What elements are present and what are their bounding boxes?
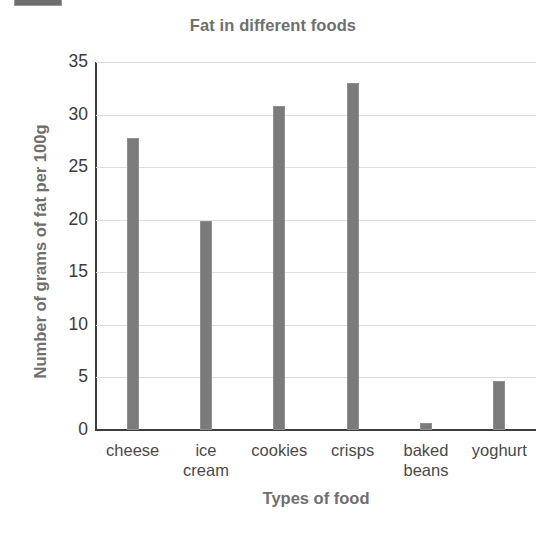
y-tick-label: 35 xyxy=(46,51,88,72)
y-tick-label: 30 xyxy=(46,104,88,125)
bar xyxy=(273,106,285,430)
gridline xyxy=(96,220,536,221)
y-axis-tick-labels: 05101520253035 xyxy=(38,0,88,534)
y-tick-label: 10 xyxy=(46,314,88,335)
gridline xyxy=(96,325,536,326)
gridline xyxy=(96,272,536,273)
gridline xyxy=(96,377,536,378)
y-tick-label: 15 xyxy=(46,261,88,282)
bar xyxy=(127,138,139,430)
bar xyxy=(200,221,212,430)
plot-area xyxy=(96,62,536,430)
gridline xyxy=(96,167,536,168)
bar xyxy=(347,83,359,430)
y-tick-label: 5 xyxy=(46,366,88,387)
gridline xyxy=(96,115,536,116)
y-tick-label: 0 xyxy=(46,419,88,440)
bar xyxy=(420,423,432,430)
y-tick-label: 20 xyxy=(46,209,88,230)
bar-chart: Fat in different foods Number of grams o… xyxy=(0,0,546,534)
y-tick-label: 25 xyxy=(46,156,88,177)
x-axis-title: Types of food xyxy=(96,489,536,508)
x-tick-label: yoghurt xyxy=(454,440,544,460)
gridline xyxy=(96,62,536,63)
bar xyxy=(493,381,505,430)
